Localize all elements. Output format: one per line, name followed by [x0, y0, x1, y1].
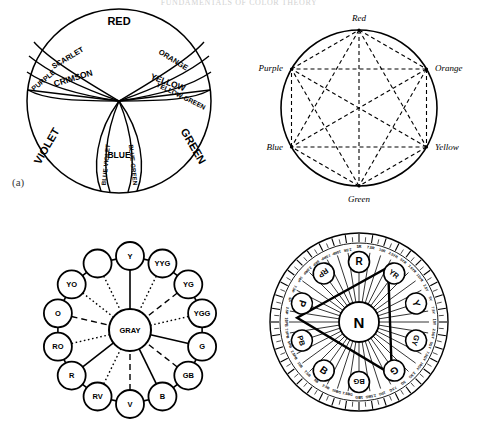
panel-d-tick-label: 10BG — [331, 388, 341, 395]
panel-a-label-red: RED — [107, 15, 130, 27]
panel-a-label-crimson: CRIMSON — [52, 67, 93, 88]
panel-a-label-blue-green: BLUE-GREEN — [128, 144, 139, 186]
panel-d-tick-label: 10P — [296, 275, 303, 283]
panel-c-node — [84, 249, 112, 277]
panel-d-tick-label: 5BG — [355, 395, 363, 399]
panel-d-center-label: N — [354, 314, 365, 331]
panel-c-node-label-yyg: YYG — [155, 259, 171, 268]
panel-d-tick-label: 5Y — [428, 296, 433, 302]
panel-d-tick-label: 10Y — [432, 319, 436, 326]
panel-d-munsell-hue-circle: 5R7.5R10R2.5YR5YR7.5YR10YR2.5Y5Y7.5Y10Y2… — [239, 216, 478, 432]
panel-d-tick-label: 5R — [357, 245, 362, 249]
panel-b-label-yellow: Yellow — [435, 142, 459, 152]
panel-c-node-label-y: Y — [127, 252, 132, 261]
panel-b-hexagon-hue-circle: Red Orange Yellow Green Blue Purple (b) — [239, 0, 478, 216]
panel-d-tick-label: 10RP — [331, 249, 341, 256]
panel-b-label-orange: Orange — [435, 63, 463, 73]
panel-d-tick-label: 2.5GY — [430, 328, 436, 339]
panel-d-tick-label: 2.5P — [284, 307, 289, 316]
panel-d-tick-label: 10PB — [284, 318, 288, 327]
panel-d-tick-label: 10G — [378, 390, 386, 396]
panel-d-tick-label: 5G — [400, 380, 406, 386]
panel-d-tick-label: 10B — [296, 361, 303, 369]
panel-b-label-blue: Blue — [267, 142, 284, 152]
panel-b-label-red: Red — [351, 13, 366, 23]
panel-c-node-label-gb: GB — [183, 371, 195, 380]
panel-b-svg: Red Orange Yellow Green Blue Purple — [239, 0, 478, 216]
panel-d-tick-label: 7.5P — [290, 285, 297, 294]
panel-c-node-label-o: O — [55, 309, 61, 318]
panel-b-label-green: Green — [348, 194, 371, 204]
panel-d-tick-label: 7.5RP — [320, 253, 331, 261]
panel-d-tick-label: 2.5R — [343, 247, 352, 252]
panel-d-major-hue-y: Y — [403, 290, 429, 316]
panel-c-node-label-b: B — [160, 392, 166, 401]
panel-c-node-label-v: V — [127, 400, 132, 409]
panel-c-node-label-ro: RO — [52, 342, 63, 351]
panel-a-label-violet: VIOLET — [31, 126, 61, 167]
svg-text:R: R — [355, 256, 363, 267]
color-theory-figure: FUNDAMENTALS OF COLOR THEORY — [0, 0, 478, 432]
panel-a-svg: RED GREEN VIOLET SCARLET CRIMSON PURPLE … — [0, 0, 239, 216]
panel-d-tick-label: 5GY — [427, 341, 433, 350]
panel-d-major-hue-r: R — [349, 252, 370, 273]
panel-d-major-hue-gy: GY — [403, 327, 429, 353]
panel-d-tick-label: 7.5Y — [431, 306, 436, 315]
panel-d-tick-label: 7.5R — [367, 245, 376, 250]
panel-c-node-label-rv: RV — [92, 392, 102, 401]
panel-d-tick-label: 7.5GY — [421, 351, 429, 362]
panel-c-node-label-r: R — [69, 371, 75, 380]
panel-c-node-label-g: G — [199, 342, 205, 351]
panel-d-tick-label: 10R — [378, 248, 386, 254]
svg-text:BG: BG — [353, 377, 364, 386]
panel-a-color-wheel-petals: RED GREEN VIOLET SCARLET CRIMSON PURPLE … — [0, 0, 239, 216]
panel-a-label-green: GREEN — [178, 126, 208, 166]
panel-c-node-label-yg: YG — [183, 280, 194, 289]
panel-d-tick-label: 7.5BG — [342, 391, 353, 397]
panel-c-node-label-yo: YO — [66, 280, 77, 289]
panel-d-major-hue-p: P — [289, 290, 315, 316]
panel-d-tick-label: 7.5PB — [284, 328, 290, 339]
panel-d-svg: 5R7.5R10R2.5YR5YR7.5YR10YR2.5Y5Y7.5Y10Y2… — [239, 216, 478, 432]
panel-c-center-label: GRAY — [120, 326, 141, 335]
panel-d-tick-label: 2.5BG — [365, 393, 376, 399]
panel-a-label-blue: BLUE — [107, 150, 130, 160]
panel-d-tick-label: 2.5PB — [290, 350, 298, 361]
panel-a-label-scarlet: SCARLET — [50, 45, 85, 71]
panel-c-svg: YYYGYGYGGGGBBVRVRROOYO GRAY — [0, 216, 239, 432]
caption-a: (a) — [12, 176, 24, 188]
panel-d-tick-label: 10YR — [415, 273, 424, 283]
panel-b-chords — [292, 30, 427, 186]
panel-d-tick-label: 2.5B — [322, 384, 331, 391]
panel-c-gray-hue-network: YYYGYGYGGGGBBVRVRROOYO GRAY (c) — [0, 216, 239, 432]
panel-d-tick-label: 10GY — [415, 361, 424, 371]
panel-b-label-purple: Purple — [258, 63, 284, 73]
panel-d-major-hue-bg: BG — [349, 372, 370, 393]
panel-c-node-label-ygg: YGG — [194, 309, 211, 318]
